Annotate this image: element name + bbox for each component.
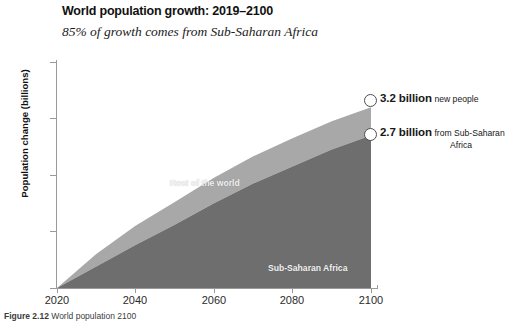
figure-caption: Figure 2.12 World population 2100 [4, 311, 136, 321]
figure-caption-number: Figure 2.12 [4, 311, 49, 321]
chart-title: World population growth: 2019–2100 [62, 4, 273, 18]
figure-caption-text: World population 2100 [51, 311, 136, 321]
x-tick-label-2040: 2040 [105, 294, 165, 306]
chart-subtitle: 85% of growth comes from Sub-Saharan Afr… [62, 24, 318, 40]
y-tick-2 [50, 175, 57, 176]
annotation-ssa-description-line2: Africa [402, 139, 520, 151]
series-label-rest-of-the-world: Rest of the world [170, 178, 240, 188]
annotation-total-description: new people [434, 94, 478, 104]
x-tick-2040 [135, 288, 136, 293]
x-tick-2020 [57, 288, 58, 293]
x-axis-line [56, 288, 378, 289]
endpoint-marker-total [364, 94, 377, 107]
y-tick-4 [50, 62, 57, 63]
x-tick-2060 [214, 288, 215, 293]
y-axis-title: Population change (billions) [19, 44, 30, 224]
y-tick-0 [50, 288, 57, 289]
annotation-sub-saharan-growth: 2.7 billion from Sub-Saharan Africa [380, 126, 525, 151]
annotation-ssa-value: 2.7 billion [380, 126, 432, 138]
figure-container: World population growth: 2019–2100 85% o… [0, 0, 529, 321]
annotation-total-value: 3.2 billion [380, 92, 432, 104]
x-tick-2100 [371, 288, 372, 293]
y-tick-1 [50, 231, 57, 232]
annotation-total-growth: 3.2 billion new people [380, 92, 478, 105]
annotation-ssa-description-line1: from Sub-Saharan [434, 128, 504, 138]
series-label-sub-saharan-africa: Sub-Saharan Africa [268, 263, 347, 273]
x-tick-label-2080: 2080 [262, 294, 322, 306]
endpoint-marker-sub-saharan [364, 128, 377, 141]
y-tick-3 [50, 118, 57, 119]
x-tick-label-2020: 2020 [27, 294, 87, 306]
stacked-area-series [57, 62, 371, 288]
x-tick-label-2060: 2060 [184, 294, 244, 306]
x-tick-label-2100: 2100 [341, 294, 401, 306]
x-axis-end-tick [377, 285, 378, 289]
x-tick-2080 [292, 288, 293, 293]
